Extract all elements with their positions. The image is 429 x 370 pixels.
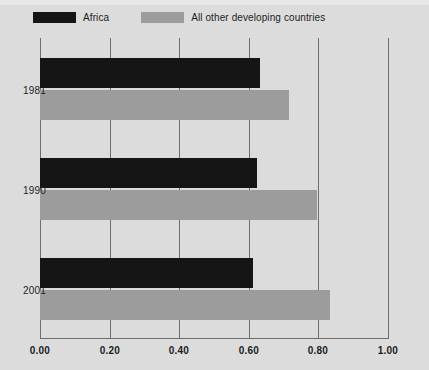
legend-label-africa: Africa: [83, 12, 109, 23]
legend-item-all-other-developing-countries: All other developing countries: [141, 12, 325, 23]
legend-item-africa: Africa: [33, 12, 109, 23]
bar-africa-1990: [40, 158, 257, 188]
xtick-label-0.80: 0.80: [288, 345, 348, 356]
bar-all-other-developing-countries-2001: [40, 290, 330, 320]
bar-chart-figure: Africa All other developing countries 19…: [0, 0, 429, 370]
ytick-label-1981: 1981: [10, 85, 46, 96]
xtick-label-0.40: 0.40: [149, 345, 209, 356]
bar-all-other-developing-countries-1981: [40, 90, 289, 120]
bar-africa-2001: [40, 258, 253, 288]
bar-africa-1981: [40, 58, 260, 88]
x-axis-line: [40, 338, 389, 339]
gridline-1.00: [388, 38, 389, 338]
xtick-label-0.00: 0.00: [10, 345, 70, 356]
legend-swatch-africa: [33, 12, 76, 23]
ytick-label-2001: 2001: [10, 285, 46, 296]
xtick-label-0.20: 0.20: [80, 345, 140, 356]
xtick-label-1.00: 1.00: [358, 345, 418, 356]
chart-legend: Africa All other developing countries: [33, 10, 325, 25]
bar-all-other-developing-countries-1990: [40, 190, 317, 220]
plot-area: [40, 38, 388, 338]
xtick-label-0.60: 0.60: [219, 345, 279, 356]
legend-label-all-other-developing-countries: All other developing countries: [191, 12, 325, 23]
legend-swatch-all-other-developing-countries: [141, 12, 184, 23]
ytick-label-1990: 1990: [10, 185, 46, 196]
